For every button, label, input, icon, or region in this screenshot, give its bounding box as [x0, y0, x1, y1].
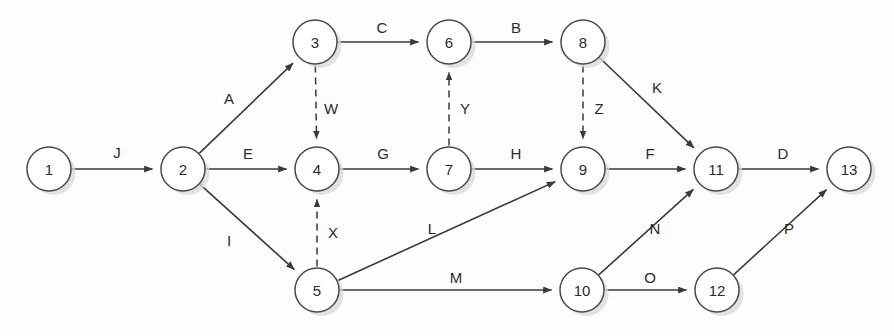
network-diagram-canvas: 12345678910111213 JAEICWGBYHXLMKZFNODP [0, 0, 894, 336]
node-label-7: 7 [445, 161, 453, 178]
edge-label-h: H [511, 145, 522, 162]
node-label-5: 5 [313, 282, 321, 299]
node-2[interactable]: 2 [161, 147, 210, 195]
node-label-10: 10 [574, 282, 591, 299]
node-label-4: 4 [313, 161, 321, 178]
edge-label-z: Z [594, 100, 603, 117]
edge-l-5-to-9 [337, 182, 555, 281]
node-8[interactable]: 8 [561, 20, 610, 68]
edge-label-i: I [227, 232, 231, 249]
edge-label-b: B [511, 19, 521, 36]
edge-label-l: L [428, 220, 436, 237]
node-13[interactable]: 13 [827, 147, 876, 195]
node-9[interactable]: 9 [561, 147, 610, 195]
node-label-13: 13 [841, 161, 858, 178]
node-label-2: 2 [179, 161, 187, 178]
node-label-1: 1 [45, 161, 53, 178]
node-label-12: 12 [709, 282, 726, 299]
edge-label-j: J [113, 144, 121, 161]
edge-k-8-to-11 [599, 58, 694, 148]
node-7[interactable]: 7 [427, 147, 476, 195]
edge-label-k: K [652, 79, 662, 96]
node-label-6: 6 [445, 34, 453, 51]
edge-label-p: P [784, 220, 794, 237]
edge-label-n: N [650, 220, 661, 237]
edge-a-2-to-3 [199, 63, 293, 153]
node-label-8: 8 [579, 34, 587, 51]
edge-label-e: E [243, 145, 253, 162]
edge-label-y: Y [460, 100, 470, 117]
edge-label-w: W [324, 100, 339, 117]
network-diagram-svg: 12345678910111213 JAEICWGBYHXLMKZFNODP [0, 0, 894, 336]
edge-w-3-to-4 [315, 65, 316, 138]
edge-label-x: X [328, 224, 338, 241]
node-12[interactable]: 12 [695, 268, 744, 316]
node-3[interactable]: 3 [293, 20, 342, 68]
node-4[interactable]: 4 [295, 147, 344, 195]
edge-label-o: O [644, 269, 656, 286]
edge-label-f: F [645, 145, 654, 162]
edge-n-10-to-11 [599, 189, 694, 274]
edge-label-c: C [377, 19, 388, 36]
edge-p-12-to-13 [734, 190, 827, 275]
node-label-3: 3 [311, 34, 319, 51]
node-1[interactable]: 1 [27, 147, 76, 195]
node-11[interactable]: 11 [694, 147, 743, 195]
edge-i-2-to-5 [200, 184, 295, 269]
node-label-11: 11 [708, 161, 724, 178]
edge-label-m: M [450, 269, 463, 286]
node-10[interactable]: 10 [560, 268, 609, 316]
edge-label-g: G [377, 145, 389, 162]
edge-label-a: A [224, 90, 234, 107]
node-5[interactable]: 5 [295, 268, 344, 316]
node-6[interactable]: 6 [427, 20, 476, 68]
edge-label-d: D [778, 145, 789, 162]
node-label-9: 9 [579, 161, 587, 178]
